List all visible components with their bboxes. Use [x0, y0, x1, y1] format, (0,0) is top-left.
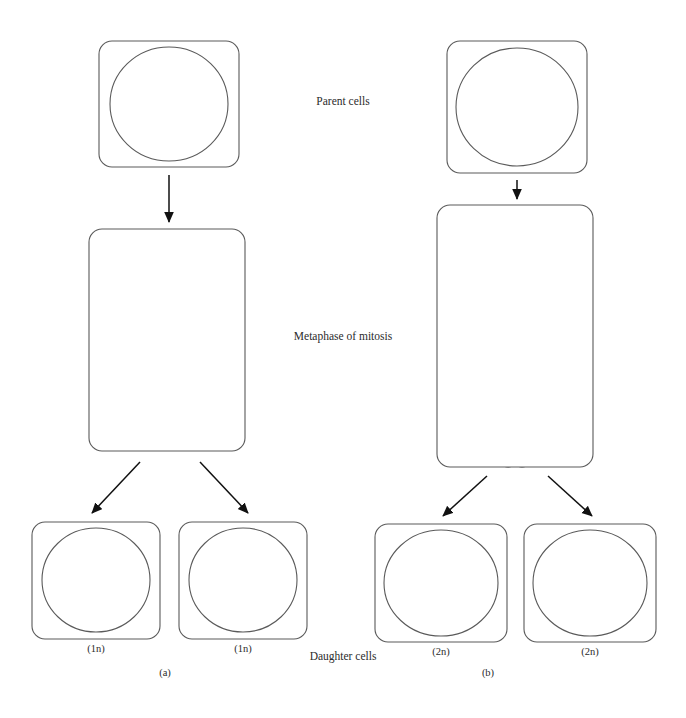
panel-b-metaphase-cell [437, 205, 593, 467]
stage-label-parent-cells: Parent cells [243, 95, 443, 107]
ploidy-label-a-1: (1n) [46, 643, 146, 654]
cell-box [447, 41, 587, 173]
panel-a-metaphase-cell [89, 229, 245, 451]
stage-label-metaphase: Metaphase of mitosis [243, 330, 443, 342]
figure-canvas: ABPQBABAQPQPABPQABPQABPQPQABBABAQPQPQPQP… [0, 0, 686, 718]
cell-box [179, 522, 307, 639]
panel-b-daughter-cell-1 [375, 524, 507, 642]
panel-a-daughter-cell-2 [179, 522, 307, 639]
panel-a-parent-cell [99, 41, 239, 167]
mitosis-diagram: ABPQBABAQPQPABPQABPQABPQPQABBABAQPQPQPQP… [0, 0, 686, 718]
panel-label-a: (a) [120, 667, 210, 678]
cell-box [99, 41, 239, 167]
panel-a-daughter-cell-1 [32, 522, 160, 639]
panel-b-parent-cell [447, 41, 587, 173]
cell-box [437, 205, 593, 467]
cell-box [375, 524, 507, 642]
arrow-metaphase-to-daughter-a-right [200, 462, 248, 513]
arrow-metaphase-to-daughter-b-left [443, 476, 487, 516]
cell-box [89, 229, 245, 451]
cell-box [524, 524, 656, 642]
ploidy-label-a-2: (1n) [193, 643, 293, 654]
panel-b-daughter-cell-2 [524, 524, 656, 642]
ploidy-label-b-2: (2n) [540, 646, 640, 657]
ploidy-label-b-1: (2n) [391, 646, 491, 657]
arrow-metaphase-to-daughter-b-right [548, 476, 592, 516]
panel-label-b: (b) [443, 667, 533, 678]
arrow-metaphase-to-daughter-a-left [92, 462, 140, 513]
cell-box [32, 522, 160, 639]
